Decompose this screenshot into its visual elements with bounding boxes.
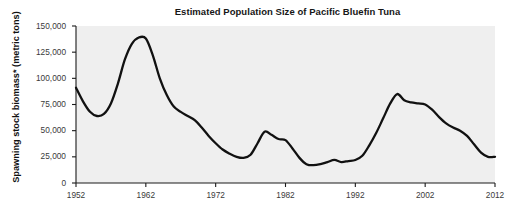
- chart-figure: Estimated Population Size of Pacific Blu…: [0, 0, 524, 218]
- x-axis-ticks: [76, 183, 495, 187]
- plot-area: [0, 0, 524, 218]
- y-axis-ticks: [72, 26, 76, 183]
- plot-background: [76, 26, 495, 183]
